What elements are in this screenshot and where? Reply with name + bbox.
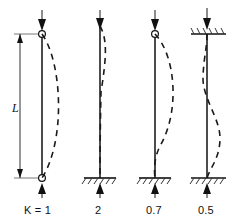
column-4-fixed-top bbox=[191, 28, 226, 34]
column-1-group bbox=[38, 10, 59, 198]
column-buckling-figure: L K = 1 2 0.7 0.5 bbox=[0, 0, 234, 224]
base-hatch bbox=[208, 178, 212, 184]
column-3-buckled-shape bbox=[155, 34, 174, 178]
column-1-buckled-shape bbox=[42, 34, 59, 178]
base-hatch bbox=[149, 178, 153, 184]
top-hatch bbox=[209, 28, 212, 34]
base-hatch bbox=[106, 178, 110, 184]
base-hatch bbox=[137, 178, 141, 184]
column-3-fixed-base bbox=[137, 178, 171, 184]
figure-canvas bbox=[0, 0, 234, 224]
base-hatch bbox=[88, 178, 92, 184]
column-1-bottom-pin-icon bbox=[39, 175, 46, 182]
base-hatch bbox=[100, 178, 104, 184]
column-4-reaction-arrow bbox=[203, 183, 211, 198]
base-hatch bbox=[190, 178, 194, 184]
column-4-fixed-base bbox=[190, 178, 226, 184]
load-arrow-head-icon bbox=[203, 18, 211, 30]
reaction-arrow-head-icon bbox=[151, 183, 159, 194]
column-4-load-arrow bbox=[203, 8, 211, 30]
base-hatch bbox=[196, 178, 200, 184]
column-3-reaction-arrow bbox=[151, 183, 159, 198]
base-hatch bbox=[202, 178, 206, 184]
top-hatch bbox=[197, 28, 200, 34]
base-hatch bbox=[94, 178, 98, 184]
base-hatch bbox=[214, 178, 218, 184]
column-2-buckled-shape bbox=[100, 26, 105, 178]
top-hatch bbox=[203, 28, 206, 34]
base-hatch bbox=[82, 178, 86, 184]
column-4-buckled-shape bbox=[203, 34, 220, 178]
base-hatch bbox=[112, 178, 116, 184]
column-2-group bbox=[82, 10, 116, 198]
top-hatch bbox=[215, 28, 218, 34]
load-arrow-head-icon bbox=[151, 19, 159, 31]
column-3-load-arrow bbox=[151, 10, 159, 31]
reaction-arrow-head-icon bbox=[203, 183, 211, 194]
column-1-reaction-arrow bbox=[38, 183, 46, 198]
column-3-group bbox=[137, 10, 173, 198]
length-dimension bbox=[14, 34, 46, 178]
dimension-arrow-up-icon bbox=[17, 34, 23, 43]
top-hatch bbox=[191, 28, 194, 34]
base-hatch bbox=[155, 178, 159, 184]
top-hatch bbox=[221, 28, 224, 34]
base-hatch bbox=[161, 178, 165, 184]
column-4-group bbox=[190, 8, 226, 198]
base-hatch bbox=[143, 178, 147, 184]
column-1-load-arrow bbox=[38, 10, 46, 31]
base-hatch bbox=[220, 178, 224, 184]
reaction-arrow-head-icon bbox=[96, 183, 104, 194]
dimension-arrow-down-icon bbox=[17, 169, 23, 178]
load-arrow-head-icon bbox=[38, 19, 46, 31]
reaction-arrow-head-icon bbox=[38, 183, 46, 194]
column-2-fixed-base bbox=[82, 178, 116, 184]
base-hatch bbox=[167, 178, 171, 184]
column-2-reaction-arrow bbox=[96, 183, 104, 198]
